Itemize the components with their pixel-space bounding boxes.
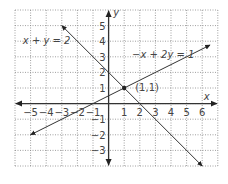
x-tick-label: 5 xyxy=(183,107,189,118)
x-tick-label: −2 xyxy=(70,107,85,118)
y-tick-label: −1 xyxy=(91,114,106,125)
y-axis-label: y xyxy=(112,7,120,18)
intersection-point xyxy=(122,86,126,90)
x-tick-label: 3 xyxy=(152,107,158,118)
x-tick-label: −5 xyxy=(23,107,38,118)
y-tick-label: 4 xyxy=(99,36,105,47)
x-tick-label: −3 xyxy=(54,107,69,118)
coordinate-plane: −5−4−3−2−1123456−3−2−112345 x y x + y = … xyxy=(0,0,228,184)
x-axis-label: x xyxy=(203,91,210,102)
plotted-lines xyxy=(31,26,210,166)
y-tick-label: −2 xyxy=(91,130,106,141)
x-tick-label: −4 xyxy=(39,107,54,118)
line-series-1 xyxy=(62,26,202,166)
x-tick-label: 4 xyxy=(168,107,174,118)
line1-equation-label: x + y = 2 xyxy=(22,35,71,46)
grid-lines xyxy=(15,10,218,166)
x-tick-label: 1 xyxy=(121,107,127,118)
y-tick-label: 5 xyxy=(99,21,105,32)
y-tick-label: 1 xyxy=(99,83,105,94)
x-tick-label: 6 xyxy=(199,107,205,118)
y-tick-label: −3 xyxy=(91,145,106,156)
x-tick-label: 2 xyxy=(137,107,143,118)
intersection-point-label: (1,1) xyxy=(135,82,159,93)
line2-equation-label: −x + 2y = 1 xyxy=(132,49,194,60)
y-tick-label: 3 xyxy=(99,52,105,63)
